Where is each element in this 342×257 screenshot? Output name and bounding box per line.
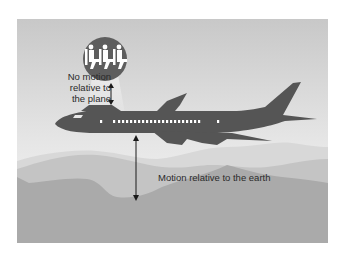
mountain-layers bbox=[17, 143, 328, 243]
diagram-panel: No motion relative to the plane Motion r… bbox=[17, 19, 328, 243]
label-line: the plane bbox=[37, 93, 111, 104]
label-line: No motion bbox=[37, 71, 111, 82]
passenger-icons bbox=[85, 45, 127, 69]
label-line: relative to bbox=[37, 82, 111, 93]
label-no-motion-plane: No motion relative to the plane bbox=[37, 71, 111, 104]
label-motion-earth: Motion relative to the earth bbox=[158, 172, 270, 183]
diagram-canvas bbox=[17, 19, 328, 243]
